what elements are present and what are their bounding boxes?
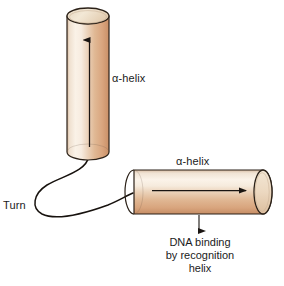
caption-line-1: DNA binding bbox=[142, 236, 258, 249]
caption-dna-binding: DNA binding by recognition helix bbox=[142, 236, 258, 275]
alpha-helix-cylinder-horizontal bbox=[125, 170, 272, 214]
alpha-helix-cylinder-vertical bbox=[67, 8, 109, 160]
helix-turn-helix-figure: α-helix α-helix Turn DNA binding by reco… bbox=[0, 0, 284, 286]
turn-loop-connector bbox=[35, 156, 133, 217]
caption-line-2: by recognition bbox=[142, 249, 258, 262]
label-alpha-helix-vertical: α-helix bbox=[112, 72, 145, 84]
label-alpha-helix-horizontal: α-helix bbox=[176, 155, 209, 167]
caption-line-3: helix bbox=[142, 262, 258, 275]
label-turn: Turn bbox=[3, 199, 26, 211]
